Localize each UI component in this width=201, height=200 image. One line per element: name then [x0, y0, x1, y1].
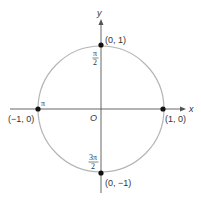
point-top-angle-numerator: π — [93, 49, 97, 58]
point-left-coord-label: (−1, 0) — [8, 114, 34, 124]
unit-circle-diagram: x y O (1, 0) (0, 1) π 2 π (−1, 0) 3π 2 (… — [0, 0, 201, 200]
point-bottom-angle-denominator: 2 — [91, 162, 95, 171]
point-right-coord-label: (1, 0) — [165, 114, 186, 124]
point-bottom — [98, 170, 103, 175]
point-right — [160, 106, 165, 111]
point-left-angle-label: π — [41, 99, 45, 108]
origin-label: O — [90, 113, 97, 123]
point-top-angle-denominator: 2 — [93, 58, 97, 67]
point-top — [98, 42, 103, 47]
x-axis-arrow-icon — [180, 107, 186, 112]
point-left — [35, 106, 40, 111]
point-bottom-angle-numerator: 3π — [89, 153, 97, 162]
y-axis-label: y — [96, 8, 102, 18]
x-axis-label: x — [188, 104, 194, 114]
y-axis-arrow-icon — [99, 19, 104, 25]
point-top-coord-label: (0, 1) — [105, 35, 126, 45]
point-bottom-coord-label: (0, −1) — [105, 178, 131, 188]
